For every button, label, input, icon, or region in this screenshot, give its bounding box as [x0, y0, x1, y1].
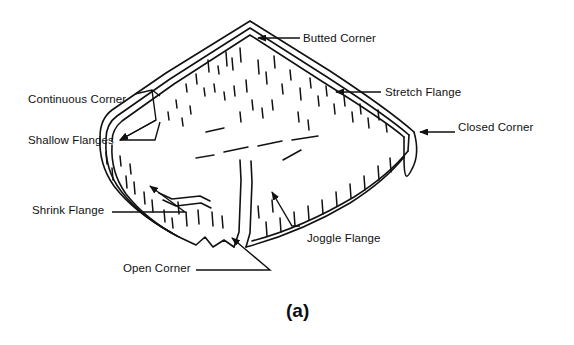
box-inner-floor [196, 128, 318, 160]
label-butted-corner: Butted Corner [303, 32, 376, 46]
label-line-1: Continuous Corner [28, 93, 126, 107]
leader-joggle-flange [272, 192, 300, 226]
label-open-corner: Open Corner [123, 262, 191, 276]
box-side-walls [100, 132, 417, 247]
label-closed-corner: Closed Corner [458, 121, 533, 135]
figure-caption: (a) [286, 300, 309, 322]
label-continuous-corner-shallow-flanges: Continuous Corner Shallow Flanges [28, 66, 126, 174]
label-shrink-flange: Shrink Flange [32, 204, 104, 218]
label-line-2: Shallow Flanges [28, 134, 126, 148]
label-stretch-flange: Stretch Flange [385, 86, 461, 100]
shading-ticks [106, 48, 391, 236]
figure-container: Continuous Corner Shallow Flanges Butted… [0, 0, 574, 345]
label-joggle-flange: Joggle Flange [307, 232, 381, 246]
